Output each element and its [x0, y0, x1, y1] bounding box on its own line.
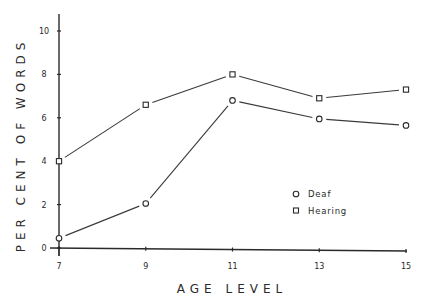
x-tick-label: 15 [401, 262, 411, 271]
square-marker-icon [143, 102, 148, 107]
series-hearing [56, 72, 408, 164]
series-line-segment [239, 76, 312, 96]
circle-marker-icon [316, 116, 322, 122]
square-marker-icon [317, 96, 322, 101]
circle-marker-icon [403, 123, 409, 129]
series-line-segment [152, 77, 226, 103]
y-tick-label: 8 [41, 70, 46, 79]
legend-circle-marker-icon [293, 191, 299, 197]
y-axis-title: PER CENT OF WORDS [14, 38, 28, 253]
series-line-segment [65, 109, 140, 158]
square-marker-icon [230, 72, 235, 77]
x-tick-label: 13 [314, 262, 324, 271]
series-deaf [56, 98, 409, 241]
legend-label-deaf: Deaf [308, 189, 331, 199]
x-tick-label: 9 [143, 262, 148, 271]
legend-square-marker-icon [294, 208, 299, 213]
y-tick-label: 0 [41, 244, 46, 253]
square-marker-icon [56, 159, 61, 164]
x-tick-label: 7 [56, 262, 61, 271]
x-tick-label: 11 [227, 262, 237, 271]
series-line-segment [326, 119, 399, 124]
circle-marker-icon [143, 201, 149, 207]
circle-marker-icon [56, 235, 62, 241]
y-tick-label: 6 [41, 114, 46, 123]
y-tick-label: 4 [41, 157, 46, 166]
series-line-segment [239, 102, 312, 118]
x-axis [50, 248, 407, 251]
x-axis-title: AGE LEVEL [177, 282, 287, 296]
series-line-segment [150, 106, 228, 198]
circle-marker-icon [230, 98, 236, 104]
legend: Deaf Hearing [293, 189, 347, 216]
y-tick-label: 10 [39, 27, 49, 36]
line-chart: 0246810 79111315 AGE LEVEL PER CENT OF W… [0, 0, 433, 306]
y-tick-label: 2 [41, 201, 46, 210]
y-ticks: 0246810 [39, 27, 61, 253]
series-line-segment [326, 90, 399, 97]
legend-label-hearing: Hearing [308, 206, 347, 216]
square-marker-icon [403, 87, 408, 92]
series-line-segment [65, 206, 139, 236]
